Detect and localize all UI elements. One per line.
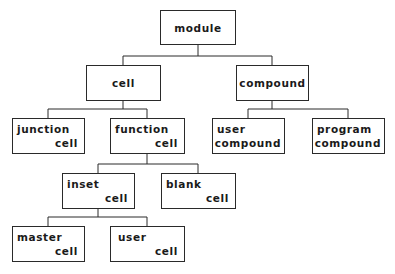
node-user-compound: user compound	[212, 118, 285, 154]
node-label-line2: cell	[55, 137, 78, 149]
node-compound: compound	[236, 65, 309, 101]
node-function-cell: function cell	[110, 118, 185, 154]
node-user-cell: user cell	[110, 226, 185, 262]
node-module: module	[160, 10, 236, 45]
node-label-line2: cell	[105, 192, 128, 204]
node-label: cell	[87, 77, 160, 89]
node-master-cell: master cell	[12, 226, 85, 262]
node-label-line1: blank	[166, 178, 202, 190]
node-label-line1: program	[317, 123, 372, 135]
node-label-line2: cell	[206, 192, 229, 204]
node-label-line1: master	[17, 231, 62, 243]
node-cell: cell	[86, 65, 161, 101]
node-label: compound	[237, 77, 308, 89]
node-label-line1: user	[118, 231, 146, 243]
node-blank-cell: blank cell	[161, 173, 236, 209]
node-label-line1: junction	[17, 123, 70, 135]
node-inset-cell: inset cell	[62, 173, 135, 209]
node-label-line2: compound	[315, 137, 381, 149]
node-label-line1: function	[115, 123, 169, 135]
node-label-line1: user	[217, 123, 245, 135]
node-label-line2: compound	[215, 137, 281, 149]
node-label-line1: inset	[67, 178, 99, 190]
node-label: module	[161, 22, 235, 34]
node-junction-cell: junction cell	[12, 118, 85, 154]
node-label-line2: cell	[155, 245, 178, 257]
node-label-line2: cell	[55, 245, 78, 257]
node-label-line2: cell	[155, 137, 178, 149]
node-program-compound: program compound	[312, 118, 385, 154]
